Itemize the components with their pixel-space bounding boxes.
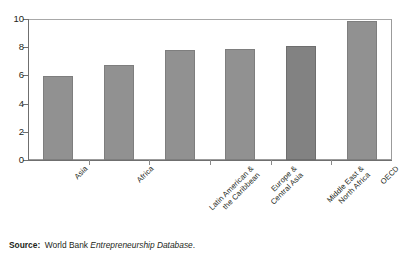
y-axis-tick-label: 2 xyxy=(19,126,24,137)
y-axis-spine xyxy=(28,19,29,161)
bar xyxy=(225,49,255,160)
x-axis-category-label: Latin American & the Caribbean xyxy=(207,164,262,219)
source-note: Source: World Bank Entrepreneurship Data… xyxy=(9,240,195,251)
bar xyxy=(347,21,377,160)
x-axis-tick-mark xyxy=(331,160,332,165)
y-axis-tick-label: 8 xyxy=(19,41,24,52)
x-axis-category-label: OECD xyxy=(378,164,400,186)
x-axis-tick-mark xyxy=(271,160,272,165)
bar xyxy=(104,65,134,160)
y-axis-tick-label: 4 xyxy=(19,98,24,109)
x-axis-tick-mark xyxy=(210,160,211,165)
x-axis-tick-mark xyxy=(89,160,90,165)
y-axis-tick-label: 10 xyxy=(13,13,24,24)
source-terminator: . xyxy=(193,240,195,250)
figure-container: 0246810 AsiaAfricaLatin American & the C… xyxy=(0,0,407,262)
bar xyxy=(286,46,316,160)
bar xyxy=(165,50,195,160)
x-axis-category-label: Middle East & North Africa xyxy=(325,164,372,211)
source-label: Source: xyxy=(9,240,40,250)
plot-frame xyxy=(28,19,392,160)
x-axis-category-label: Asia xyxy=(73,164,90,181)
bar xyxy=(43,76,73,160)
chart-plot-area: 0246810 AsiaAfricaLatin American & the C… xyxy=(0,0,407,232)
source-publisher: World Bank xyxy=(45,240,88,250)
y-axis-tick-label: 6 xyxy=(19,69,24,80)
x-axis-category-label: Africa xyxy=(135,164,156,185)
source-publication: Entrepreneurship Database xyxy=(90,240,192,250)
y-axis-tick-label: 0 xyxy=(19,154,24,165)
x-axis-category-label: Europe & Central Asia xyxy=(263,164,306,207)
